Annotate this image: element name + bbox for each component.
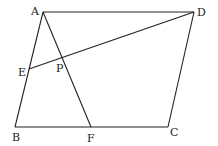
label-e: E [18, 66, 26, 79]
label-d: D [197, 6, 206, 19]
label-c: C [170, 126, 178, 139]
label-f: F [87, 132, 95, 145]
label-p: P [56, 62, 64, 75]
segment-af [43, 12, 91, 127]
label-a: A [30, 5, 40, 18]
segment-dc [168, 12, 194, 127]
label-b: B [12, 131, 20, 144]
geometry-diagram: A D E P B F C [0, 0, 218, 146]
segment-ed [29, 12, 194, 69]
